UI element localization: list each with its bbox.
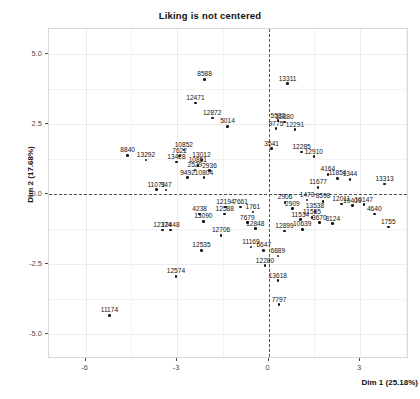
- data-point: [250, 246, 253, 249]
- data-point: [155, 188, 158, 191]
- data-point: [349, 178, 352, 181]
- data-point-label: 12848: [246, 220, 264, 227]
- data-point: [278, 303, 281, 306]
- y-axis-title: Dim 2 (17.68%): [26, 115, 35, 235]
- y-tick-label: 2.5: [14, 119, 42, 128]
- x-gridline: [406, 29, 407, 357]
- y-tick: [45, 53, 48, 54]
- data-point: [383, 183, 386, 186]
- data-point-label: 12588: [216, 205, 234, 212]
- data-point-label: 8598: [316, 192, 331, 199]
- data-point-label: 10639: [293, 220, 311, 227]
- x-axis-title: Dim 1 (25.18%): [300, 378, 418, 387]
- data-point-label: 12706: [212, 226, 230, 233]
- data-point-label: 5014: [220, 117, 235, 124]
- y-tick-label: 5.0: [14, 49, 42, 58]
- data-point: [286, 82, 289, 85]
- data-point: [277, 255, 280, 258]
- data-point: [336, 177, 339, 180]
- x-gridline: [86, 29, 87, 357]
- data-point-label: 12194: [216, 198, 234, 205]
- y-gridline: [49, 54, 407, 55]
- data-point-label: 3541: [264, 140, 279, 147]
- data-point-label: 9775: [269, 120, 284, 127]
- data-point-label: 10147: [355, 196, 373, 203]
- data-point: [275, 127, 278, 130]
- data-point: [169, 229, 172, 232]
- scatter-plot-figure: Liking is not centered Dim 2 (17.68%) Di…: [0, 0, 420, 399]
- x-tick: [268, 358, 269, 361]
- data-point-label: 8588: [197, 70, 212, 77]
- data-point-label: 13313: [375, 175, 393, 182]
- data-point: [203, 176, 206, 179]
- data-point: [301, 228, 304, 231]
- data-point: [363, 203, 366, 206]
- y-gridline: [49, 89, 407, 90]
- y-tick-label: -2.5: [14, 258, 42, 267]
- data-point-label: 1344: [342, 170, 357, 177]
- data-point-label: 11174: [101, 306, 118, 313]
- data-point: [291, 207, 294, 210]
- data-point: [211, 117, 214, 120]
- x-tick-label: -3: [173, 363, 180, 372]
- data-point: [373, 213, 376, 216]
- y-tick-label: -5.0: [14, 328, 42, 337]
- data-point: [318, 221, 321, 224]
- data-point-label: 8124: [325, 215, 340, 222]
- data-point-label: 12872: [203, 109, 221, 116]
- y-tick: [45, 193, 48, 194]
- y-gridline: [49, 299, 407, 300]
- data-point: [226, 125, 229, 128]
- x-tick-label: 3: [357, 363, 361, 372]
- data-point-label: 12574: [167, 267, 185, 274]
- data-point: [277, 279, 280, 282]
- data-point-label: 7797: [272, 296, 287, 303]
- data-point-label: 2909: [285, 200, 300, 207]
- data-point-label: 10804: [195, 169, 213, 176]
- data-point: [175, 275, 178, 278]
- data-point-label: 12448: [161, 221, 179, 228]
- data-point-label: 12535: [192, 241, 210, 248]
- data-point-label: 12291: [286, 121, 304, 128]
- x-gridline: [131, 29, 132, 357]
- data-point: [300, 151, 303, 154]
- data-point: [186, 176, 189, 179]
- data-point-label: 2529: [187, 161, 202, 168]
- data-point: [108, 314, 111, 317]
- x-tick: [85, 358, 86, 361]
- data-point: [306, 199, 309, 202]
- vertical-reference-line: [269, 29, 270, 357]
- data-point: [202, 220, 205, 223]
- data-point-label: 12280: [256, 257, 274, 264]
- page-title: Liking is not centered: [0, 10, 420, 21]
- data-point: [262, 249, 265, 252]
- data-point: [200, 249, 203, 252]
- data-point-label: 12471: [186, 94, 204, 101]
- plot-panel: 8588133111247112872501455821288097751229…: [48, 28, 408, 358]
- data-point: [194, 102, 197, 105]
- x-tick: [176, 358, 177, 361]
- data-point: [126, 154, 129, 157]
- x-tick: [359, 358, 360, 361]
- y-gridline: [49, 334, 407, 335]
- data-point: [283, 230, 286, 233]
- y-gridline: [49, 264, 407, 265]
- data-point: [254, 227, 257, 230]
- data-point: [203, 78, 206, 81]
- y-tick: [45, 123, 48, 124]
- data-point-label: 12899: [275, 222, 293, 229]
- data-point: [387, 226, 390, 229]
- data-point: [239, 206, 242, 209]
- data-point: [264, 264, 267, 267]
- data-point: [145, 159, 148, 162]
- data-point: [313, 155, 316, 158]
- data-point-label: 947: [161, 181, 172, 188]
- data-point: [161, 229, 164, 232]
- data-point-label: 4640: [367, 205, 382, 212]
- data-point-label: 1761: [245, 203, 260, 210]
- x-gridline: [360, 29, 361, 357]
- data-point-label: 13292: [137, 151, 155, 158]
- data-point-label: 1755: [381, 218, 396, 225]
- data-point-label: 13618: [269, 272, 287, 279]
- y-tick: [45, 333, 48, 334]
